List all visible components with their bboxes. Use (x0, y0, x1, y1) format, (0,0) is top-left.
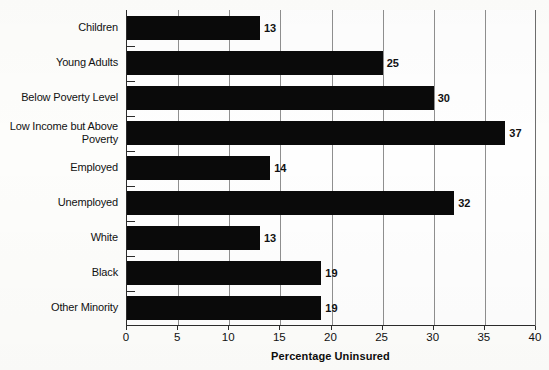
axis-tick (127, 291, 135, 292)
bar-value-label: 19 (325, 303, 337, 314)
x-axis-tick-label: 5 (162, 331, 192, 343)
bar-chart: ChildrenYoung AdultsBelow Poverty LevelL… (0, 0, 549, 370)
x-axis-tick (177, 326, 178, 330)
x-axis-tick (535, 326, 536, 330)
y-axis-label: Unemployed (58, 196, 118, 209)
x-axis-tick-label: 0 (111, 331, 141, 343)
y-axis-label: Black (92, 266, 118, 279)
x-axis-tick (228, 326, 229, 330)
y-axis-label: Employed (70, 161, 118, 174)
x-axis-tick (433, 326, 434, 330)
x-axis-tick (382, 326, 383, 330)
bar (127, 296, 321, 320)
axis-tick (127, 81, 135, 82)
bar-value-label: 19 (325, 268, 337, 279)
x-axis-tick-label: 40 (520, 331, 549, 343)
bar-value-label: 13 (264, 233, 276, 244)
axis-tick (127, 151, 135, 152)
bar (127, 51, 383, 75)
bar-value-label: 13 (264, 23, 276, 34)
bar-value-label: 30 (438, 93, 450, 104)
bar-value-label: 37 (509, 128, 521, 139)
axis-tick (127, 256, 135, 257)
x-axis-tick-label: 10 (213, 331, 243, 343)
bar-value-label: 25 (387, 58, 399, 69)
bar-value-label: 14 (274, 163, 286, 174)
x-axis-tick-label: 30 (418, 331, 448, 343)
bar (127, 191, 454, 215)
x-axis-tick (331, 326, 332, 330)
plot-frame-right-edge (535, 10, 536, 326)
y-axis-label: Other Minority (51, 301, 118, 314)
gridline (485, 10, 486, 325)
x-axis-tick-label: 15 (264, 331, 294, 343)
x-axis-tick (484, 326, 485, 330)
gridline (383, 10, 384, 325)
axis-tick (127, 46, 135, 47)
bar (127, 16, 260, 40)
bar (127, 261, 321, 285)
x-axis-title: Percentage Uninsured (126, 350, 535, 362)
x-axis-tick (279, 326, 280, 330)
y-axis-label: Below Poverty Level (21, 91, 118, 104)
axis-tick (127, 116, 135, 117)
gridline (434, 10, 435, 325)
x-axis-tick (126, 326, 127, 330)
axis-tick (127, 221, 135, 222)
y-axis-label: Low Income but Above Poverty (10, 120, 118, 145)
bar-value-label: 32 (458, 198, 470, 209)
y-axis-label: White (91, 231, 118, 244)
x-axis-tick-label: 20 (316, 331, 346, 343)
bar (127, 156, 270, 180)
y-axis-category-labels: ChildrenYoung AdultsBelow Poverty LevelL… (0, 10, 122, 325)
x-axis-tick-label: 25 (367, 331, 397, 343)
axis-tick (127, 186, 135, 187)
bar (127, 226, 260, 250)
bar (127, 121, 505, 145)
y-axis-label: Children (78, 21, 118, 34)
y-axis-label: Young Adults (56, 56, 118, 69)
bar (127, 86, 434, 110)
x-axis-tick-label: 35 (469, 331, 499, 343)
plot-area: 132530371432131919 (126, 10, 536, 326)
